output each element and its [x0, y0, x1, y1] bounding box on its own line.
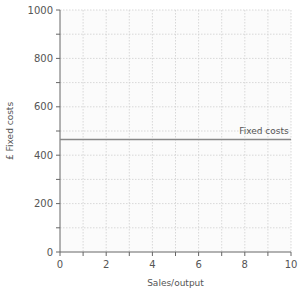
x-axis-title: Sales/output [147, 278, 204, 288]
x-tick-label: 10 [285, 259, 298, 270]
y-tick-label: 1000 [28, 5, 53, 16]
x-tick-label: 4 [149, 259, 155, 270]
y-tick-label: 0 [47, 247, 53, 258]
y-tick-label: 200 [34, 198, 53, 209]
y-tick-label: 400 [34, 150, 53, 161]
x-tick-label: 6 [195, 259, 201, 270]
y-axis-title: £ Fixed costs [5, 102, 15, 160]
x-tick-label: 8 [242, 259, 248, 270]
x-tick-label: 0 [57, 259, 63, 270]
fixed-costs-chart: 020040060080010000246810Sales/output£ Fi… [0, 0, 308, 293]
x-tick-label: 2 [103, 259, 109, 270]
y-tick-label: 600 [34, 101, 53, 112]
fixed-costs-label: Fixed costs [239, 126, 289, 136]
y-tick-label: 800 [34, 53, 53, 64]
